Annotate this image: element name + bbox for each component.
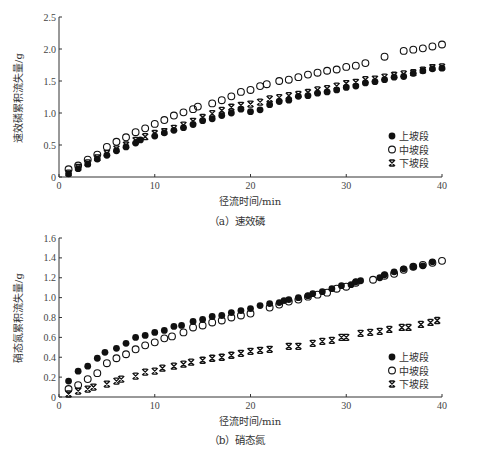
x-tick-label: 40 [437, 180, 447, 191]
chart-a-points [65, 41, 445, 177]
data-point [132, 334, 139, 341]
data-point [439, 257, 446, 264]
chart-a-x-axis: 010203040 [57, 174, 448, 191]
data-point [161, 327, 168, 334]
data-point [257, 83, 264, 90]
data-point [428, 319, 434, 325]
data-point [286, 343, 292, 349]
data-point [209, 319, 216, 326]
chart-b-y-label: 硝态氮累积流失量/g [12, 273, 24, 363]
data-point [75, 368, 82, 375]
data-point [171, 363, 177, 369]
y-tick-label: 1.0 [44, 292, 57, 303]
data-point [314, 69, 321, 76]
legend-marker-icon [389, 146, 396, 153]
data-point [133, 373, 139, 379]
data-point [333, 66, 340, 73]
data-point [333, 87, 340, 94]
data-point [219, 354, 225, 360]
chart-a: 00.51.01.52.02.5 010203040 上坡段中坡段下坡段 速效磷… [12, 12, 447, 228]
legend-marker-icon [389, 160, 395, 166]
data-point [188, 359, 194, 365]
data-point [152, 368, 158, 374]
data-point [123, 351, 130, 358]
data-point [419, 45, 426, 52]
data-point [257, 302, 264, 309]
data-point [267, 346, 273, 352]
data-point [377, 328, 383, 334]
data-point [113, 138, 120, 145]
data-point [238, 106, 245, 113]
data-point [171, 323, 178, 330]
y-tick-label: 2.5 [44, 12, 57, 23]
data-point [434, 317, 440, 323]
data-point [285, 76, 292, 83]
data-point [113, 345, 120, 352]
data-point [90, 384, 96, 390]
data-point [310, 340, 316, 346]
y-tick-label: 0.6 [44, 332, 57, 343]
chart-b-x-axis: 010203040 [57, 394, 448, 411]
legend-label: 上坡段 [399, 351, 429, 363]
data-point [94, 355, 101, 362]
data-point [84, 363, 91, 370]
data-point [263, 81, 270, 88]
y-tick-label: 0 [51, 392, 56, 403]
legend-label: 下坡段 [399, 157, 429, 169]
data-point [159, 365, 165, 371]
x-tick-label: 20 [246, 400, 256, 411]
data-point [180, 361, 186, 367]
data-point [362, 60, 369, 67]
y-tick-label: 0 [51, 172, 56, 183]
x-tick-label: 30 [341, 180, 351, 191]
data-point [94, 370, 101, 377]
y-tick-label: 0.4 [44, 352, 57, 363]
y-tick-label: 0.5 [44, 140, 57, 151]
data-point [276, 98, 283, 105]
legend-label: 上坡段 [399, 130, 429, 142]
data-point [295, 343, 301, 349]
data-point [65, 378, 72, 385]
data-point [343, 64, 350, 71]
legend-label: 中坡段 [399, 144, 429, 156]
data-point [329, 337, 335, 343]
data-point [169, 333, 176, 340]
data-point [367, 329, 373, 335]
x-tick-label: 40 [437, 400, 447, 411]
y-tick-label: 0.8 [44, 312, 57, 323]
chart-b-y-axis: 00.20.40.60.81.01.21.41.6 [44, 233, 63, 403]
data-point [103, 360, 110, 367]
chart-b-points [65, 257, 445, 397]
data-point [142, 125, 149, 132]
data-point [276, 78, 283, 85]
y-tick-label: 1.2 [44, 272, 57, 283]
x-tick-label: 20 [246, 180, 256, 191]
data-point [352, 83, 359, 90]
data-point [429, 43, 436, 50]
chart-b-legend: 上坡段中坡段下坡段 [389, 351, 429, 390]
data-point [199, 322, 206, 329]
data-point [161, 129, 168, 136]
figure: 00.51.01.52.02.5 010203040 上坡段中坡段下坡段 速效磷… [0, 0, 478, 468]
data-point [324, 67, 331, 74]
chart-b-x-label: 径流时间/min [219, 415, 282, 427]
chart-b: 00.20.40.60.81.01.21.41.6 010203040 上坡段中… [12, 233, 447, 447]
data-point [161, 117, 168, 124]
data-point [410, 46, 417, 53]
data-point [238, 88, 245, 95]
data-point [343, 84, 350, 91]
data-point [103, 144, 110, 151]
data-point [84, 376, 91, 383]
data-point [439, 65, 446, 72]
x-tick-label: 10 [150, 180, 160, 191]
data-point [248, 348, 254, 354]
chart-a-y-label: 速效磷累积流失量/g [12, 53, 24, 143]
data-point [238, 350, 244, 356]
data-point [113, 355, 120, 362]
data-point [257, 347, 263, 353]
x-tick-label: 30 [341, 400, 351, 411]
data-point [358, 330, 364, 336]
data-point [209, 355, 215, 361]
legend-marker-icon [389, 367, 396, 374]
chart-a-caption: （a）速效磷 [209, 215, 266, 227]
